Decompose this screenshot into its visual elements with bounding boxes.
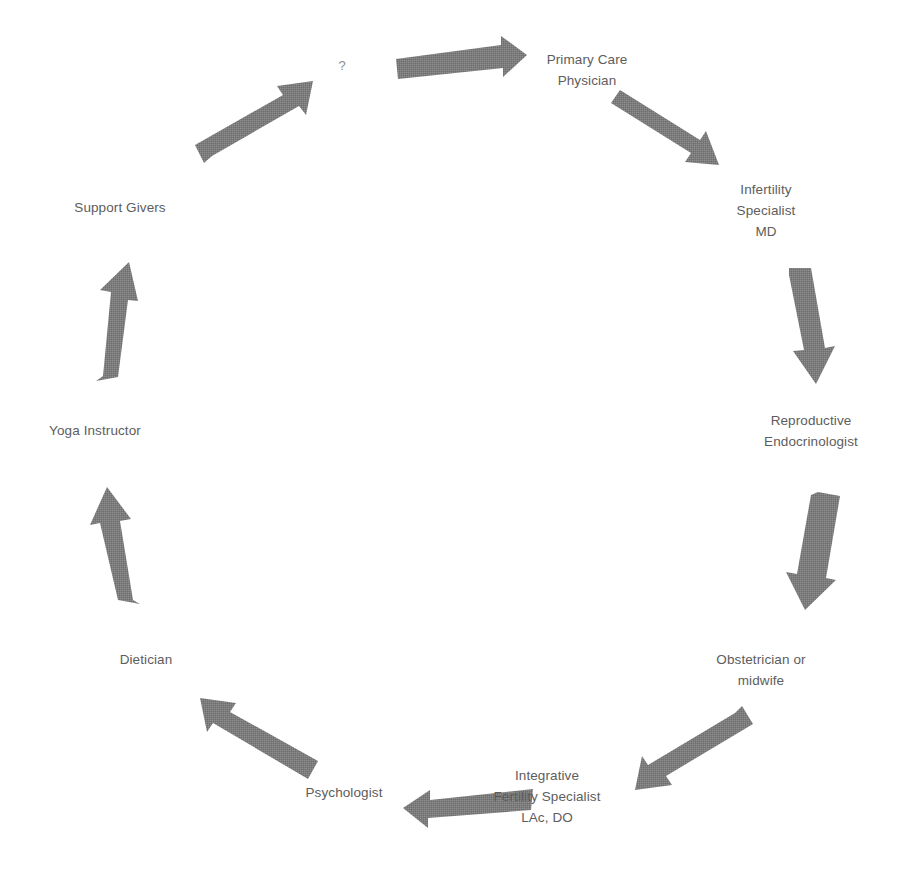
arrow-to-integrative xyxy=(635,706,753,790)
arrow-to-question xyxy=(195,81,313,163)
arrow-to-yoga xyxy=(90,487,140,604)
node-label-primary-care-physician: Primary Care Physician xyxy=(497,50,677,92)
node-label-infertility-specialist: Infertility Specialist MD xyxy=(676,180,856,243)
arrow-to-obstetrician xyxy=(786,492,840,610)
arrow-to-reproductive xyxy=(789,268,835,384)
arrow-to-infertility xyxy=(611,90,719,165)
node-label-support-givers: Support Givers xyxy=(25,198,215,219)
arrow-to-support xyxy=(96,262,138,381)
node-label-integrative-fertility-specialist: Integrative Fertility Specialist LAc, DO xyxy=(452,766,642,829)
arrow-to-dietician xyxy=(200,698,318,779)
cycle-diagram: ? Primary Care Physician Infertility Spe… xyxy=(0,0,918,879)
node-label-reproductive-endocrinologist: Reproductive Endocrinologist xyxy=(716,411,906,453)
node-label-obstetrician-or-midwife: Obstetrician or midwife xyxy=(666,650,856,692)
node-label-psychologist: Psychologist xyxy=(254,783,434,804)
question-mark-label: ? xyxy=(329,58,355,73)
node-label-yoga-instructor: Yoga Instructor xyxy=(0,421,190,442)
node-label-dietician: Dietician xyxy=(56,650,236,671)
